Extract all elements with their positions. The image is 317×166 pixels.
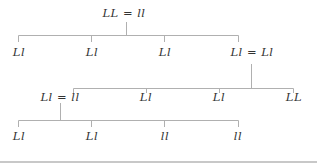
tree-node: Ll <box>86 129 98 143</box>
tree-node: Ll <box>213 90 225 104</box>
tree-node: ll <box>234 129 242 143</box>
tree-node: Ll <box>86 45 98 59</box>
tree-node: Ll <box>140 90 152 104</box>
tree-node: LL <box>286 90 302 104</box>
tree-node: Ll = ll <box>40 90 79 104</box>
tree-node: Ll = Ll <box>230 45 273 59</box>
tree-node: Ll <box>13 45 25 59</box>
tree-node: Ll <box>159 45 171 59</box>
tree-node: Ll <box>13 129 25 143</box>
tree-node-root: LL = ll <box>102 6 145 20</box>
bottom-divider <box>0 161 317 163</box>
tree-node: ll <box>161 129 169 143</box>
tree-diagram: LL = ll Ll Ll Ll Ll = Ll Ll = ll Ll Ll L… <box>0 0 317 166</box>
tree-connectors <box>0 0 317 166</box>
